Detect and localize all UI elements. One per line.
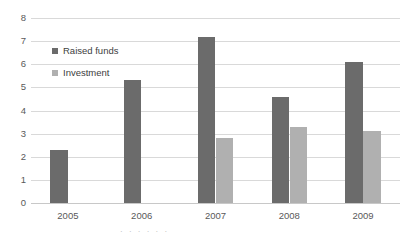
bar-chart: 012345678 20052006200720082009 Raised fu… <box>0 0 411 237</box>
y-axis-tick-label: 0 <box>8 198 26 208</box>
y-axis-tick-label: 7 <box>8 36 26 46</box>
x-axis-tick-label: 2005 <box>38 210 98 221</box>
y-axis-tick-label: 3 <box>8 129 26 139</box>
y-axis-tick-label: 2 <box>8 152 26 162</box>
y-axis-tick-label: 1 <box>8 175 26 185</box>
x-axis-tick-label: 2006 <box>112 210 172 221</box>
bar-raised-funds-2005[interactable] <box>50 150 68 203</box>
legend-swatch-icon <box>52 70 58 76</box>
y-axis-tick-label: 4 <box>8 106 26 116</box>
x-axis-tick-label: 2009 <box>333 210 393 221</box>
bar-investment-2007[interactable] <box>216 138 234 203</box>
bar-raised-funds-2009[interactable] <box>345 62 363 203</box>
bar-investment-2008[interactable] <box>290 127 308 203</box>
x-axis-tick-label: 2007 <box>186 210 246 221</box>
chart-legend: Raised funds Investment <box>52 43 118 87</box>
gridline <box>31 41 400 42</box>
bar-raised-funds-2006[interactable] <box>124 80 142 203</box>
y-axis-tick-label: 5 <box>8 82 26 92</box>
legend-item-label: Raised funds <box>63 45 118 56</box>
legend-item-label: Investment <box>63 67 109 78</box>
clipped-caption-text: · · · · · · <box>120 231 169 237</box>
bar-investment-2009[interactable] <box>363 131 381 203</box>
legend-swatch-icon <box>52 48 58 54</box>
gridline <box>31 203 400 204</box>
clipped-caption: · · · · · · <box>0 231 411 237</box>
bar-raised-funds-2007[interactable] <box>198 37 216 204</box>
y-axis-tick-label: 6 <box>8 59 26 69</box>
gridline <box>31 18 400 19</box>
y-axis-tick-label: 8 <box>8 13 26 23</box>
bar-raised-funds-2008[interactable] <box>272 97 290 203</box>
x-axis-tick-label: 2008 <box>259 210 319 221</box>
legend-item-raised-funds[interactable]: Raised funds <box>52 43 118 58</box>
legend-item-investment[interactable]: Investment <box>52 65 118 80</box>
